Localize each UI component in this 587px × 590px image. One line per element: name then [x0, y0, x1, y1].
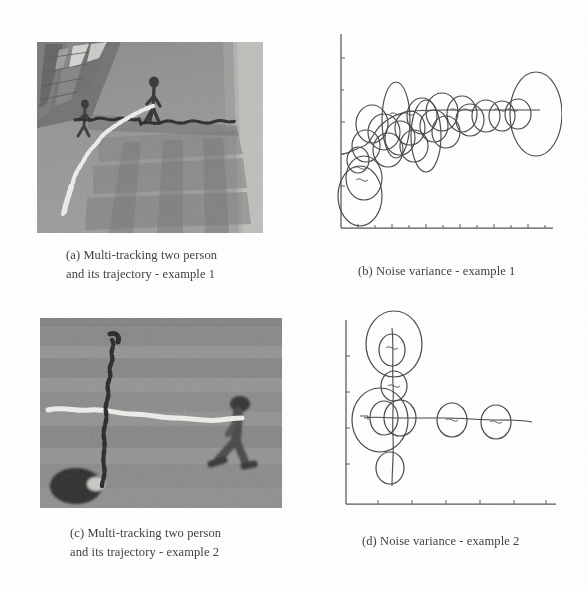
b-ellipses — [338, 72, 562, 226]
caption-c-line-2: and its trajectory - example 2 — [70, 543, 221, 562]
caption-panel-d: (d) Noise variance - example 2 — [362, 532, 519, 551]
panel-c-image — [40, 318, 282, 508]
caption-panel-b: (b) Noise variance - example 1 — [358, 262, 515, 281]
paper-figure: (a) Multi-tracking two person and its tr… — [0, 0, 587, 590]
panel-a-image — [37, 42, 263, 233]
panel-a-photo — [37, 42, 263, 233]
panel-c-photo — [40, 318, 282, 508]
panel-b-chart — [330, 28, 562, 236]
d-trajectory-path — [364, 417, 532, 422]
caption-panel-a: (a) Multi-tracking two person and its tr… — [66, 246, 217, 284]
caption-panel-c: (c) Multi-tracking two person and its tr… — [70, 524, 221, 562]
caption-b-line-1: (b) Noise variance - example 1 — [358, 262, 515, 281]
panel-d-plot — [334, 300, 564, 512]
caption-a-line-1: (a) Multi-tracking two person — [66, 246, 217, 265]
caption-d-line-1: (d) Noise variance - example 2 — [362, 532, 519, 551]
d-branch-path — [392, 328, 393, 486]
caption-a-line-2: and its trajectory - example 1 — [66, 265, 217, 284]
d-ellipses — [352, 311, 511, 484]
caption-c-line-1: (c) Multi-tracking two person — [70, 524, 221, 543]
panel-b-plot — [330, 28, 562, 236]
panel-d-chart — [334, 300, 564, 512]
